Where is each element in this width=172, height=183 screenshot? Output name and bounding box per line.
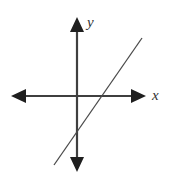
coordinate-plane-figure: y x (0, 0, 172, 183)
y-axis-label: y (87, 15, 94, 30)
x-axis-label: x (152, 88, 159, 103)
graph-canvas (0, 0, 172, 183)
